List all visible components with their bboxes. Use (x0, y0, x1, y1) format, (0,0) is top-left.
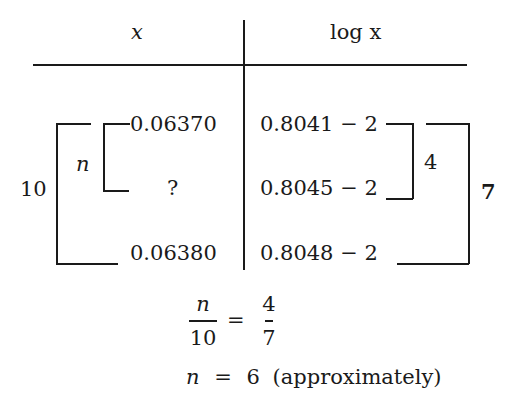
fraction-denominator-7: 7 (262, 326, 275, 350)
header-log-x: log x (330, 22, 381, 43)
fraction-bar (265, 320, 273, 322)
inner-left-bracket-vertical (103, 123, 105, 191)
outer-right-bracket-top (426, 123, 470, 125)
result-note: (approximately) (273, 365, 442, 389)
fraction-denominator-10: 10 (190, 326, 217, 350)
outer-right-bracket-vertical (468, 123, 470, 264)
inner-right-bracket-vertical (412, 123, 414, 199)
equals-sign: = (227, 310, 245, 331)
inner-left-bracket-top (103, 123, 130, 125)
x-value-1: 0.06370 (130, 114, 217, 135)
fraction-bar (189, 320, 217, 322)
header-x: x (131, 22, 143, 43)
bracket-label-7: 7 (481, 181, 496, 202)
x-value-2: 0.06380 (130, 243, 217, 264)
inner-right-bracket-top (386, 123, 413, 125)
outer-left-bracket-bottom (56, 263, 118, 265)
inner-right-bracket-bottom (386, 198, 413, 200)
fraction-n-over-10: n 10 (189, 292, 217, 350)
column-divider (243, 20, 245, 270)
header-rule (33, 64, 467, 66)
result-variable: n (186, 365, 200, 389)
result-equals: = (214, 365, 232, 389)
inner-left-bracket-bottom (103, 190, 129, 192)
fraction-numerator-n: n (196, 292, 210, 316)
log-value-unknown: 0.8045 − 2 (260, 178, 378, 199)
log-value-1: 0.8041 − 2 (260, 114, 378, 135)
outer-left-bracket-vertical (56, 123, 58, 264)
fraction-4-over-7: 4 7 (262, 292, 276, 350)
outer-right-bracket-bottom (397, 263, 469, 265)
bracket-label-10: 10 (20, 179, 47, 200)
outer-left-bracket-top (56, 123, 91, 125)
log-value-2: 0.8048 − 2 (260, 243, 378, 264)
result-value: 6 (247, 365, 260, 389)
result-line: n = 6 (approximately) (186, 367, 442, 388)
bracket-label-4: 4 (424, 152, 437, 173)
bracket-label-n: n (76, 154, 90, 175)
fraction-numerator-4: 4 (262, 292, 275, 316)
header-log-x-label: log x (330, 20, 381, 44)
x-value-unknown: ? (167, 178, 178, 199)
